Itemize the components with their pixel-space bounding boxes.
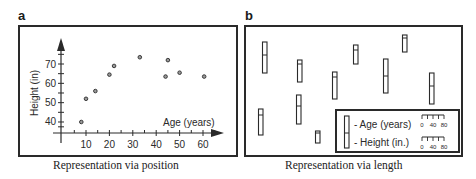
glyph-plot: - Age (years)- Height (in.)0408004080 [0,0,476,160]
svg-text:40: 40 [430,122,437,128]
length-glyph [333,72,338,99]
length-glyph [430,73,435,104]
length-glyph [297,95,302,124]
panel-b-caption: Representation via length [285,159,403,172]
legend-height-label: - Height (in.) [354,137,409,148]
length-glyph [384,59,389,93]
svg-text:40: 40 [430,144,437,150]
length-glyph [263,42,268,73]
length-glyph [259,109,264,135]
length-glyph [403,35,408,52]
length-glyph [316,131,321,143]
svg-text:80: 80 [441,144,448,150]
svg-text:80: 80 [441,122,448,128]
length-glyph [298,60,303,82]
legend: - Age (years)- Height (in.)0408004080 [336,110,459,152]
legend-age-label: - Age (years) [354,119,411,130]
length-glyph [354,45,359,64]
panel-a-caption: Representation via position [53,159,179,172]
